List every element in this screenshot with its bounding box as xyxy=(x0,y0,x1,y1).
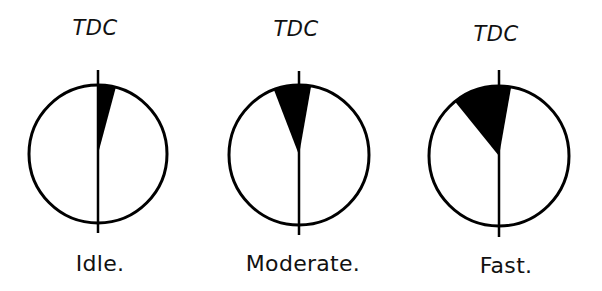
speed-label-fast: Fast. xyxy=(480,255,533,277)
advance-wedge-idle xyxy=(98,85,116,154)
tdc-label-moderate: TDC xyxy=(273,19,318,40)
tdc-label-fast: TDC xyxy=(473,24,518,45)
timing-panel-fast xyxy=(429,70,569,237)
speed-label-moderate: Moderate. xyxy=(246,253,360,275)
advance-wedge-moderate xyxy=(274,85,311,155)
speed-label-idle: Idle. xyxy=(76,253,125,275)
timing-panel-idle xyxy=(29,70,167,233)
tdc-label-idle: TDC xyxy=(72,18,117,39)
timing-panel-moderate xyxy=(229,71,369,235)
ignition-timing-diagram: TDC TDC TDC Idle. Moderate. Fast. xyxy=(0,0,602,291)
